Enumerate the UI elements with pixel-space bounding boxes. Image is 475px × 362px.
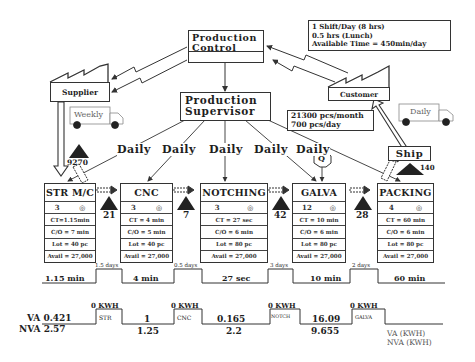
legend-va-kwh: VA (KWH) xyxy=(387,329,425,338)
inventory-count-1: 21 xyxy=(103,210,116,220)
production-control-box[interactable]: Production Control xyxy=(188,30,264,63)
operator-row: 3◎ xyxy=(121,201,172,213)
cycle-time: CT = 10 min xyxy=(293,213,345,225)
weekly-truck-label: Weekly xyxy=(74,110,103,119)
quality-label: Q xyxy=(318,153,325,163)
process-box-cnc[interactable]: CNC 3◎ CT = 4 min C/O = 5 min Lot = 40 p… xyxy=(120,183,173,263)
operator-icon: ◎ xyxy=(330,203,336,212)
process-name: CNC xyxy=(121,184,172,201)
energy-step-galva: GALVA xyxy=(355,314,372,320)
operator-icon: ◎ xyxy=(156,203,162,212)
available-time: Avail = 27,000 xyxy=(378,250,433,262)
operator-icon: ◎ xyxy=(247,203,253,212)
schedule-label-cnc: Daily xyxy=(162,143,196,156)
energy-step-cnc: CNC xyxy=(177,314,191,321)
kwh-label-2: 0 KWH xyxy=(171,301,199,310)
energy-step-str: STR xyxy=(99,314,112,321)
changeover-time: C/O = 6 min xyxy=(293,225,345,237)
lot-size: Lot = 80 pc xyxy=(378,238,433,250)
va-value-3: 16.09 xyxy=(312,314,340,324)
production-control-title-2: Control xyxy=(192,43,263,53)
operator-count: 12 xyxy=(302,203,312,212)
nva-value-3: 9.655 xyxy=(311,326,339,336)
nva-value-1: 1.25 xyxy=(137,326,159,336)
energy-step-notch: NOTCH xyxy=(271,314,290,319)
operator-icon: ◎ xyxy=(416,203,422,212)
schedule-label-str: Daily xyxy=(117,143,151,156)
wait-time-1: 1.5 days xyxy=(95,262,118,268)
wait-time-2: 0.5 days xyxy=(174,262,197,268)
ship-inventory-count: 140 xyxy=(420,163,435,172)
electronic-info-arrow-from-customer xyxy=(267,46,348,82)
available-time: Avail = 27,000 xyxy=(121,250,172,262)
process-time-5: 60 min xyxy=(394,273,425,283)
process-box-galva[interactable]: GALVA 12◎ CT = 10 min C/O = 6 min Lot = … xyxy=(292,183,346,263)
available-time: Avail = 27,000 xyxy=(293,250,345,262)
production-supervisor-box[interactable]: Production Supervisor xyxy=(180,92,271,121)
electronic-info-arrow-to-supplier xyxy=(112,47,187,92)
inventory-count-3: 42 xyxy=(274,210,287,220)
lot-size: Lot = 40 pc xyxy=(45,238,95,250)
operator-row: 4◎ xyxy=(378,201,433,213)
operator-row: 12◎ xyxy=(293,201,345,213)
process-name: NOTCHING xyxy=(201,184,267,201)
process-box-packing[interactable]: PACKING 4◎ CT = 60 min C/O = 6 min Lot =… xyxy=(377,183,434,263)
customer-box[interactable]: Customer xyxy=(328,87,390,101)
inventory-count-2: 7 xyxy=(183,210,189,220)
process-name: PACKING xyxy=(378,184,433,201)
operator-row: 3◎ xyxy=(45,201,95,213)
schedule-label-galva: Daily xyxy=(254,143,288,156)
ship-label: Ship xyxy=(396,148,424,159)
inventory-count-4: 28 xyxy=(356,210,369,220)
wait-time-4: 2 days xyxy=(352,262,370,268)
operator-count: 3 xyxy=(215,203,220,212)
process-name: GALVA xyxy=(293,184,345,201)
changeover-time: C/O = 6 min xyxy=(201,225,267,237)
daily-truck-label: Daily xyxy=(410,107,431,116)
shift-info-line-3: Available Time = 450min/day xyxy=(312,40,447,49)
operator-count: 3 xyxy=(131,203,136,212)
process-name: STR M/C xyxy=(45,184,95,201)
customer-demand-box: 21300 pcs/month 700 pcs/day xyxy=(287,110,374,131)
operator-icon: ◎ xyxy=(79,203,85,212)
process-box-str[interactable]: STR M/C 3◎ CT=1.15min C/O = 7 min Lot = … xyxy=(44,183,96,263)
kwh-label-1: 0 KWH xyxy=(91,301,119,310)
va-total: VA 0.421 xyxy=(27,313,72,323)
lot-size: Lot = 80 pc xyxy=(201,238,267,250)
cycle-time: CT=1.15min xyxy=(45,213,95,225)
ship-box[interactable]: Ship xyxy=(388,146,431,161)
supplier-shipment-arrow xyxy=(54,102,68,176)
cycle-time: CT = 4 min xyxy=(121,213,172,225)
changeover-time: C/O = 6 min xyxy=(378,225,433,237)
lot-size: Lot = 40 pc xyxy=(121,238,172,250)
nva-value-2: 2.2 xyxy=(226,326,242,336)
legend-nva-kwh: NVA (KWH) xyxy=(387,338,432,347)
va-value-1: 1 xyxy=(144,314,150,324)
nva-total: NVA 2.57 xyxy=(19,324,66,334)
supplier-label: Supplier xyxy=(62,88,98,97)
shift-info-box: 1 Shift/Day (8 hrs) 0.5 hrs (Lunch) Avai… xyxy=(308,20,451,51)
available-time: Avail = 27,000 xyxy=(201,250,267,262)
demand-daily: 700 pcs/day xyxy=(291,121,370,130)
kwh-label-4: 0 KWH xyxy=(350,301,378,310)
process-time-1: 1.15 min xyxy=(45,273,85,283)
schedule-label-notching: Daily xyxy=(209,143,243,156)
supplier-box[interactable]: Supplier xyxy=(50,82,110,102)
cycle-time: CT = 60 min xyxy=(378,213,433,225)
kwh-label-3: 0 KWH xyxy=(268,301,296,310)
operator-count: 4 xyxy=(389,203,394,212)
customer-factory-icon xyxy=(328,66,389,87)
production-supervisor-title-2: Supervisor xyxy=(185,106,270,117)
cycle-time: CT = 27 sec xyxy=(201,213,267,225)
supplier-factory-icon xyxy=(50,64,108,82)
supplier-inventory-count: 9270 xyxy=(67,158,88,167)
customer-label: Customer xyxy=(340,90,378,99)
va-value-2: 0.165 xyxy=(217,314,245,324)
changeover-time: C/O = 7 min xyxy=(45,225,95,237)
available-time: Avail = 27,000 xyxy=(45,250,95,262)
process-time-4: 10 min xyxy=(310,273,341,283)
operator-row: 3◎ xyxy=(201,201,267,213)
process-box-notching[interactable]: NOTCHING 3◎ CT = 27 sec C/O = 6 min Lot … xyxy=(200,183,268,263)
lot-size: Lot = 80 pc xyxy=(293,238,345,250)
operator-count: 3 xyxy=(55,203,60,212)
